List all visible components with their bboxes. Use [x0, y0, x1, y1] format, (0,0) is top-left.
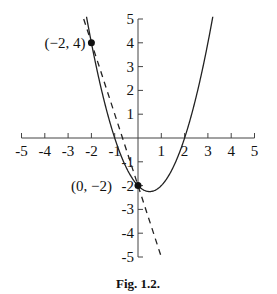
y-tick-label: -4 — [122, 225, 135, 241]
x-tick-label: -5 — [15, 143, 28, 159]
y-tick-label: 5 — [127, 11, 135, 27]
x-tick-label: 4 — [227, 143, 235, 159]
x-tick-label: 5 — [251, 143, 259, 159]
chart: -5-4-3-2-11234554321-1-2-3-4-5 (−2, 4)(0… — [0, 0, 277, 294]
point-label-a: (−2, 4) — [44, 35, 85, 52]
x-tick-label: -3 — [62, 143, 75, 159]
point-marker — [135, 182, 142, 189]
x-tick-label: 1 — [158, 143, 166, 159]
x-tick-label: -4 — [39, 143, 52, 159]
x-tick-label: 3 — [204, 143, 212, 159]
point-label-b: (0, −2) — [71, 178, 112, 195]
y-tick-label: -5 — [122, 249, 135, 265]
curves — [84, 17, 213, 257]
y-tick-label: 2 — [127, 82, 135, 98]
figure-caption: Fig. 1.2. — [116, 276, 160, 291]
parabola-curve — [87, 17, 213, 192]
point-marker — [88, 39, 95, 46]
y-tick-label: -2 — [122, 178, 135, 194]
y-tick-label: 4 — [127, 35, 135, 51]
y-tick-label: 3 — [127, 59, 135, 75]
y-tick-label: 1 — [127, 106, 135, 122]
y-tick-label: -3 — [122, 201, 135, 217]
x-tick-label: -2 — [85, 143, 98, 159]
